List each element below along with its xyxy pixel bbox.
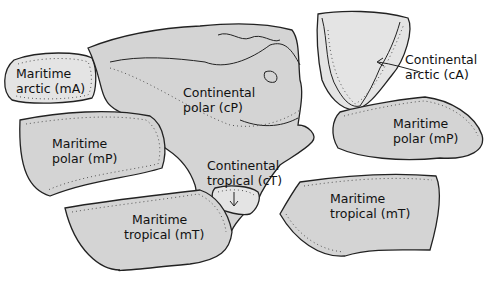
label-ma-line2: arctic (mA) (16, 81, 85, 96)
label-ct-line1: Continental (207, 158, 279, 173)
label-ct-line2: tropical (cT) (207, 173, 282, 188)
region-continental-arctic: Continental arctic (cA) (317, 11, 477, 110)
region-maritime-polar-pacific: Maritime polar (mP) (20, 112, 165, 196)
region-maritime-tropical-atlantic: Maritime tropical (mT) (280, 174, 439, 256)
label-mp-atlantic-line2: polar (mP) (393, 131, 458, 146)
region-maritime-arctic: Maritime arctic (mA) (5, 53, 96, 103)
label-mt-atlantic-line1: Maritime (330, 191, 386, 206)
label-ma-line1: Maritime (16, 66, 72, 81)
label-ca-line1: Continental (405, 52, 477, 67)
label-mt-pacific-line2: tropical (mT) (124, 227, 204, 242)
label-mt-atlantic-line2: tropical (mT) (330, 206, 410, 221)
label-mp-atlantic-line1: Maritime (393, 116, 449, 131)
air-mass-diagram: Maritime arctic (mA) Continental polar (… (0, 0, 498, 286)
label-mp-pacific-line2: polar (mP) (52, 151, 117, 166)
region-maritime-tropical-pacific: Maritime tropical (mT) (65, 190, 232, 271)
label-cp-line1: Continental (183, 85, 255, 100)
label-ca-line2: arctic (cA) (405, 67, 469, 82)
label-mt-pacific-line1: Maritime (132, 212, 188, 227)
label-cp-line2: polar (cP) (183, 100, 243, 115)
label-mp-pacific-line1: Maritime (52, 136, 108, 151)
